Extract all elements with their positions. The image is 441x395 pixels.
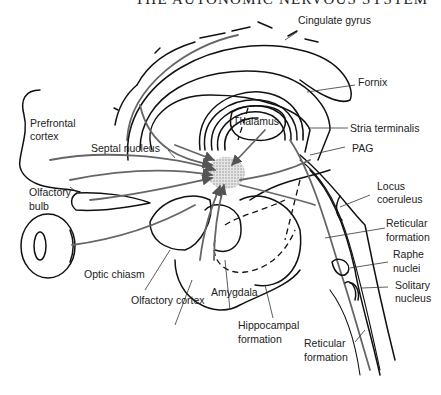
label-prefrontal-cortex-1: Prefrontal xyxy=(30,117,76,130)
label-reticular-formation-lower-1: Reticular xyxy=(304,337,345,350)
label-cingulate-gyrus: Cingulate gyrus xyxy=(298,14,371,27)
label-locus-coeruleus-1: Locus xyxy=(377,180,405,193)
olfactory-bulb xyxy=(72,193,150,211)
label-raphe-nuclei-1: Raphe xyxy=(393,248,424,261)
label-raphe-nuclei-2: nuclei xyxy=(393,262,420,275)
eye xyxy=(21,214,75,278)
label-pag: PAG xyxy=(352,142,373,155)
pathway-arrows xyxy=(50,105,315,260)
label-solitary-nucleus-2: nucleus xyxy=(395,292,431,305)
label-solitary-nucleus-1: Solitary xyxy=(395,279,430,292)
label-fornix: Fornix xyxy=(358,76,387,89)
label-stria-terminalis: Stria terminalis xyxy=(350,122,419,135)
label-hippocampal-formation-1: Hippocampal xyxy=(238,319,299,332)
label-amygdala: Amygdala xyxy=(211,286,258,299)
hypothalamus-hub xyxy=(207,157,245,189)
label-reticular-formation-lower-2: formation xyxy=(304,351,348,364)
label-hippocampal-formation-2: formation xyxy=(238,333,282,346)
label-prefrontal-cortex-2: cortex xyxy=(30,130,59,143)
label-optic-chiasm: Optic chiasm xyxy=(84,268,145,281)
label-reticular-formation-upper-1: Reticular xyxy=(386,217,427,230)
label-olfactory-cortex: Olfactory cortex xyxy=(131,294,205,307)
label-olfactory-bulb-1: Olfactory xyxy=(29,186,71,199)
label-thalamus: Thalamus xyxy=(233,115,279,128)
label-septal-nucleus: Septal nucleus xyxy=(91,142,160,155)
label-locus-coeruleus-2: coeruleus xyxy=(377,193,423,206)
label-reticular-formation-upper-2: formation xyxy=(386,231,430,244)
label-olfactory-bulb-2: bulb xyxy=(29,200,49,213)
